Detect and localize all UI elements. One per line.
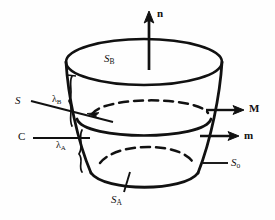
label-top-surface-SB: SB xyxy=(104,53,115,64)
label-vector-M: M xyxy=(249,103,259,114)
SA-leader-tick xyxy=(124,172,130,192)
label-surface-S: S xyxy=(15,95,21,106)
lambda-B-top-tick xyxy=(67,75,76,76)
figure-canvas: n SB S λB C λA M m So SA xyxy=(0,0,275,220)
lower-dashed-arc xyxy=(100,147,192,163)
label-curve-C: C xyxy=(18,131,25,142)
bottom-arc-SA xyxy=(91,173,198,187)
frustum-diagram-svg xyxy=(0,0,275,220)
label-vector-m: m xyxy=(244,130,253,141)
middle-ellipse-front-arc xyxy=(77,119,211,136)
label-lateral-surface-So: So xyxy=(231,157,240,168)
top-cap-ellipse-SB xyxy=(66,39,222,85)
middle-ellipse-dashed-back-arc xyxy=(92,100,208,114)
label-lambda-B: λB xyxy=(52,94,62,104)
label-lambda-A: λA xyxy=(56,140,66,150)
label-bottom-surface-SA: SA xyxy=(111,194,122,205)
label-normal-vector-n: n xyxy=(157,8,163,19)
